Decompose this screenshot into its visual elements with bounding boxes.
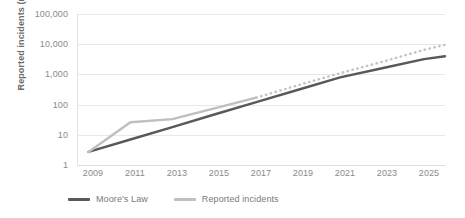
legend-swatch-icon (174, 198, 196, 201)
series-line-moores-law (88, 56, 445, 152)
x-tick-label: 2025 (419, 168, 439, 178)
legend-label: Reported incidents (202, 194, 279, 204)
legend-label: Moore's Law (96, 194, 148, 204)
series-layer (0, 0, 465, 218)
x-tick-label: 2017 (251, 168, 271, 178)
series-line-reported-incidents-projection (256, 45, 445, 98)
legend-swatch-icon (68, 198, 90, 201)
x-tick-label: 2009 (83, 168, 103, 178)
x-tick-label: 2019 (293, 168, 313, 178)
x-tick-label: 2015 (209, 168, 229, 178)
legend-item-reported-incidents[interactable]: Reported incidents (174, 194, 279, 204)
x-tick-label: 2023 (377, 168, 397, 178)
line-chart: Reported incidents (millions) 100,000 10… (0, 0, 465, 218)
x-axis-tick-labels: 2009 2011 2013 2015 2017 2019 2021 2023 … (0, 168, 465, 182)
chart-legend: Moore's Law Reported incidents (0, 190, 465, 208)
legend-item-moores-law[interactable]: Moore's Law (68, 194, 148, 204)
x-tick-label: 2021 (335, 168, 355, 178)
x-tick-label: 2011 (125, 168, 145, 178)
x-tick-label: 2013 (167, 168, 187, 178)
